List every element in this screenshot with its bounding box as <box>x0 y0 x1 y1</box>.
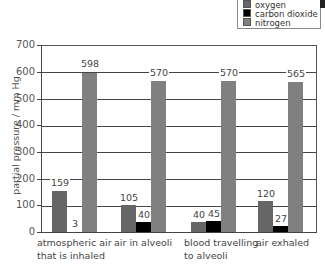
y-tick-label: 500 <box>2 94 35 104</box>
y-axis <box>41 45 42 233</box>
value-label: 27 <box>266 214 296 224</box>
value-label: 45 <box>199 209 229 219</box>
value-label: 598 <box>75 59 105 69</box>
y-tick-label: 600 <box>2 67 35 77</box>
y-tick-label: 400 <box>2 120 35 130</box>
bar-nitrogen-inhaled <box>82 73 97 233</box>
value-label: 3 <box>60 219 90 229</box>
category-label-blood: blood travellingto alveoli <box>184 236 258 262</box>
value-label: 120 <box>251 189 281 199</box>
y-tick-label: 100 <box>2 200 35 210</box>
y-tick-label: 200 <box>2 174 35 184</box>
value-label: 565 <box>281 69 311 79</box>
x-axis <box>41 232 317 233</box>
y-tick-label: 300 <box>2 147 35 157</box>
legend-swatch-carbon-dioxide <box>243 9 251 17</box>
legend-label: nitrogen <box>255 18 291 28</box>
plot-area <box>41 45 317 233</box>
category-label-exhaled: air exhaled <box>256 236 309 249</box>
category-label-inhaled: atmospheric airthat is inhaled <box>37 236 112 262</box>
value-label: 570 <box>214 68 244 78</box>
chart-legend: oxygen carbon dioxide nitrogen <box>237 0 321 29</box>
value-label: 159 <box>45 178 75 188</box>
legend-swatch-oxygen <box>243 0 251 8</box>
legend-item-nitrogen: nitrogen <box>243 18 291 28</box>
value-label: 40 <box>129 210 159 220</box>
y-tick-label: 700 <box>2 40 35 50</box>
corner-mark <box>320 0 325 8</box>
category-label-alveoli: air in alveoli <box>114 236 172 249</box>
bar-nitrogen-exhaled <box>288 82 303 233</box>
y-tick-label: 0 <box>2 227 35 237</box>
legend-swatch-nitrogen <box>243 18 251 26</box>
value-label: 570 <box>144 68 174 78</box>
value-label: 105 <box>114 193 144 203</box>
